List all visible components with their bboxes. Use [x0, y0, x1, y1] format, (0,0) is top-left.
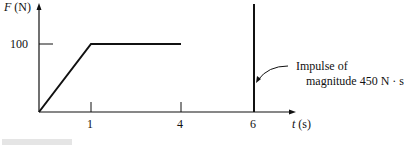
- annotation-arrow: [258, 66, 288, 80]
- x-axis-arrow-icon: [289, 110, 296, 115]
- xtick-1-label: 1: [87, 117, 93, 132]
- annotation-line-2: magnitude 450 N · s: [306, 74, 404, 89]
- ytick-100-label: 100: [10, 37, 28, 52]
- y-axis-arrow-icon: [37, 3, 42, 10]
- xtick-6-label: 6: [250, 117, 256, 132]
- force-curve: [39, 44, 181, 112]
- xtick-4-label: 4: [177, 117, 183, 132]
- x-axis-label: t (s): [292, 117, 311, 132]
- y-axis-label: F (N): [4, 0, 31, 15]
- figure-caption-cropped: [2, 139, 72, 145]
- annotation-line-1: Impulse of: [296, 59, 348, 74]
